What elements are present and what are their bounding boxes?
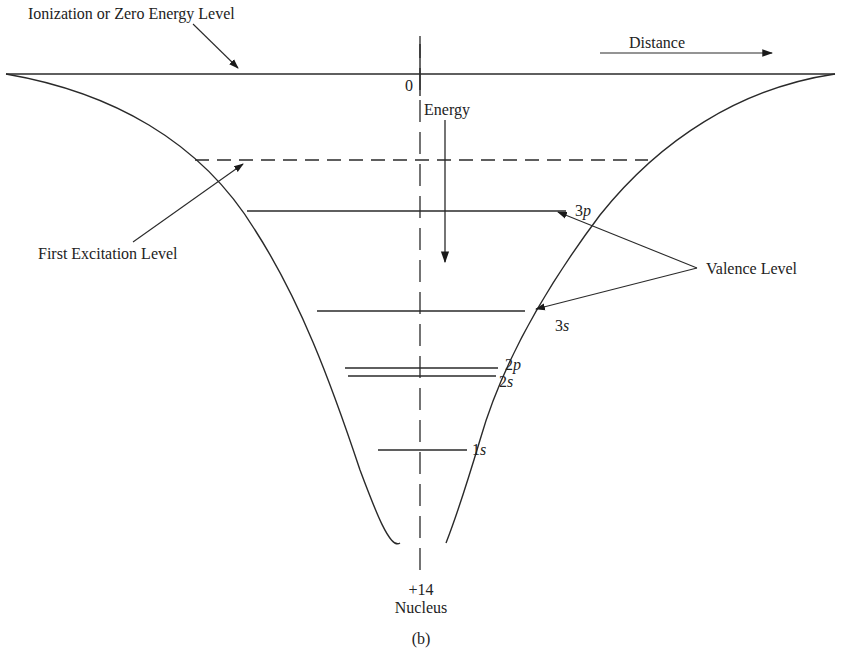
nucleus-label: Nucleus: [381, 600, 461, 616]
energy-well-diagram: [0, 0, 841, 658]
level-3p-orbital: p: [583, 202, 591, 219]
level-1s-orbital: s: [480, 441, 486, 458]
zero-label: 0: [405, 78, 413, 94]
well-right-curve: [446, 74, 835, 543]
level-3s-number: 3: [555, 317, 563, 334]
level-2s-orbital: s: [507, 373, 513, 390]
energy-label: Energy: [424, 102, 470, 118]
figure-caption: (b): [396, 631, 446, 647]
ionization-label: Ionization or Zero Energy Level: [28, 6, 235, 22]
level-1s-number: 1: [472, 441, 480, 458]
level-2s-number: 2: [499, 373, 507, 390]
ionization-pointer-arrow: [193, 24, 238, 68]
distance-label: Distance: [629, 35, 685, 51]
level-2p-orbital: p: [513, 356, 521, 373]
valence-pointer-3s-arrow: [536, 268, 697, 309]
valence-label: Valence Level: [706, 261, 797, 277]
level-3s-label: 3s: [555, 318, 569, 334]
level-1s-label: 1s: [472, 442, 486, 458]
level-2p-number: 2: [505, 356, 513, 373]
level-2p-label: 2p: [505, 357, 521, 373]
first-excitation-pointer-arrow: [133, 164, 243, 242]
first-excitation-label: First Excitation Level: [38, 246, 178, 262]
well-left-curve: [6, 74, 400, 544]
level-3s-orbital: s: [563, 317, 569, 334]
level-2s-label: 2s: [499, 374, 513, 390]
level-3p-label: 3p: [575, 203, 591, 219]
level-3p-number: 3: [575, 202, 583, 219]
nucleus-charge-label: +14: [396, 582, 446, 598]
valence-pointer-3p-arrow: [558, 212, 697, 268]
